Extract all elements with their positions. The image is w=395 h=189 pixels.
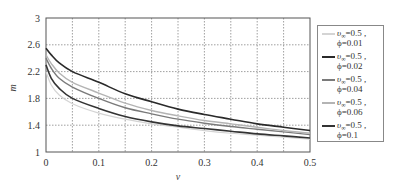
x-tick-label: 0.3 (198, 157, 211, 168)
x-tick-label: 0.1 (93, 157, 106, 168)
y-tick-label: 3 (35, 13, 40, 24)
y-tick-label: 1 (35, 147, 40, 158)
x-tick-label: 0.2 (145, 157, 158, 168)
legend-swatch (322, 33, 335, 35)
x-tick-label: 0 (44, 157, 49, 168)
y-tick-label: 1.8 (28, 93, 41, 104)
legend-swatch (322, 125, 335, 127)
y-axis-label: m (7, 84, 18, 91)
y-tick-label: 2.6 (28, 39, 41, 50)
legend-phi: ϕ=0.1 (337, 130, 358, 140)
y-axis-ticks: 11.41.82.22.63 (28, 13, 41, 158)
x-axis-ticks: 00.10.20.30.40.5 (44, 157, 317, 168)
grid-lines (46, 18, 310, 152)
y-tick-label: 2.2 (28, 66, 41, 77)
legend-swatch (322, 79, 335, 81)
legend-item: υ∞=0.5 , ϕ=0.06 (321, 97, 381, 120)
legend-item: υ∞=0.5 , ϕ=0.01 (321, 28, 381, 51)
legend-phi: ϕ=0.01 (337, 38, 363, 48)
legend-swatch (322, 56, 335, 58)
legend-phi: ϕ=0.04 (337, 84, 363, 94)
legend-item: υ∞=0.5 , ϕ=0.04 (321, 74, 381, 97)
x-tick-label: 0.5 (304, 157, 317, 168)
x-tick-label: 0.4 (251, 157, 264, 168)
legend-item: υ∞=0.5 , ϕ=0.02 (321, 51, 381, 74)
x-axis-label: v (176, 171, 181, 182)
legend-phi: ϕ=0.02 (337, 61, 363, 71)
legend-item: υ∞=0.5 , ϕ=0.1 (321, 120, 381, 143)
legend-swatch (322, 102, 335, 104)
legend: υ∞=0.5 , ϕ=0.01 υ∞=0.5 , ϕ=0.02 υ∞=0.5 ,… (317, 25, 384, 142)
legend-phi: ϕ=0.06 (337, 107, 363, 117)
y-tick-label: 1.4 (28, 120, 41, 131)
